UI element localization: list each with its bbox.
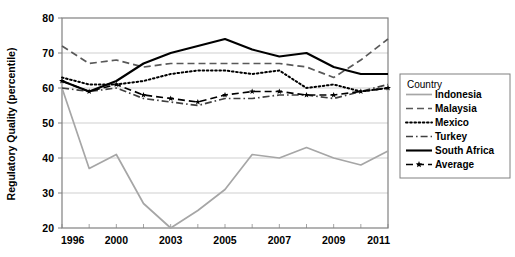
legend-item-label: Turkey — [435, 131, 467, 142]
y-axis-title: Regulatory Quality (percentile) — [5, 48, 17, 201]
regulatory-quality-line-chart: Regulatory Quality (percentile) 20304050… — [0, 0, 515, 257]
legend-item-label: Indonesia — [435, 89, 482, 100]
x-tick-label: 2007 — [268, 234, 292, 246]
x-tick-label: 2011 — [367, 234, 390, 246]
y-tick-label: 30 — [42, 187, 54, 199]
y-tick-label: 40 — [42, 152, 54, 164]
legend-item-label: Mexico — [435, 117, 469, 128]
legend-item-label: Average — [435, 159, 475, 170]
x-tick-label: 2005 — [213, 234, 237, 246]
legend-item-label: South Africa — [435, 145, 495, 156]
legend-item-label: Malaysia — [435, 103, 477, 114]
x-tick-label: 1996 — [61, 234, 85, 246]
x-tick-label: 2000 — [105, 234, 129, 246]
legend: Country IndonesiaMalaysiaMexicoTurkeySou… — [400, 74, 510, 178]
y-tick-label: 60 — [42, 82, 54, 94]
y-tick-label: 20 — [42, 222, 54, 234]
y-tick-label: 70 — [42, 47, 54, 59]
chart-page: Regulatory Quality (percentile) 20304050… — [0, 0, 515, 257]
x-tick-label: 2003 — [159, 234, 183, 246]
x-tick-label: 2009 — [322, 234, 346, 246]
y-tick-label: 50 — [42, 117, 54, 129]
y-tick-label: 80 — [42, 12, 54, 24]
